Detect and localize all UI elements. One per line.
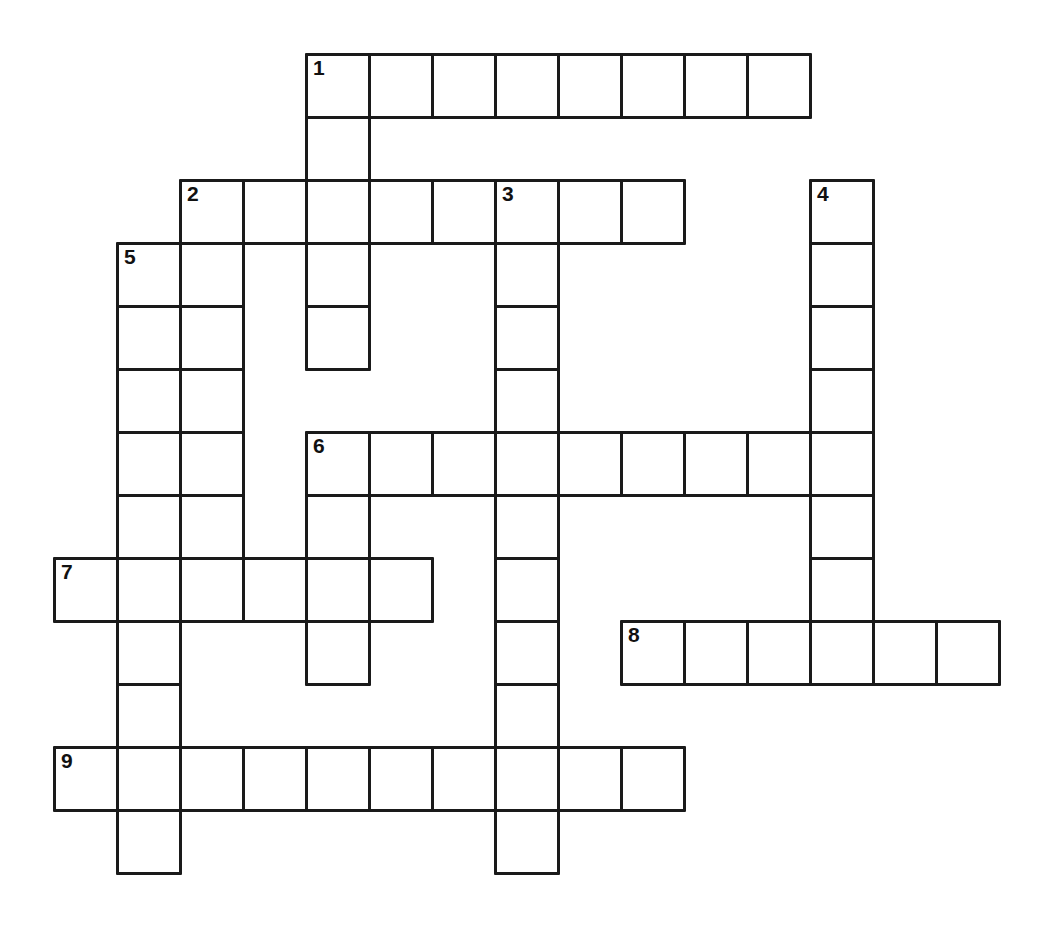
crossword-cell[interactable] <box>557 746 623 812</box>
crossword-cell[interactable] <box>494 809 560 875</box>
crossword-cell[interactable]: 2 <box>179 179 245 245</box>
crossword-cell[interactable] <box>494 368 560 434</box>
crossword-cell[interactable] <box>242 179 308 245</box>
crossword-cell[interactable] <box>179 494 245 560</box>
crossword-cell[interactable] <box>179 368 245 434</box>
crossword-cell[interactable] <box>494 620 560 686</box>
crossword-cell[interactable] <box>494 431 560 497</box>
cell-number-9: 9 <box>61 750 72 771</box>
crossword-cell[interactable] <box>305 620 371 686</box>
crossword-cell[interactable]: 6 <box>305 431 371 497</box>
cell-number-5: 5 <box>124 246 135 267</box>
crossword-cell[interactable] <box>179 557 245 623</box>
crossword-cell[interactable] <box>305 557 371 623</box>
crossword-cell[interactable] <box>809 620 875 686</box>
crossword-cell[interactable] <box>809 242 875 308</box>
crossword-cell[interactable] <box>683 620 749 686</box>
crossword-cell[interactable] <box>935 620 1001 686</box>
crossword-cell[interactable]: 5 <box>116 242 182 308</box>
crossword-cell[interactable] <box>431 431 497 497</box>
cell-number-6: 6 <box>313 435 324 456</box>
crossword-cell[interactable] <box>494 494 560 560</box>
crossword-puzzle: 123456789 <box>0 0 1037 938</box>
crossword-cell[interactable] <box>494 242 560 308</box>
crossword-cell[interactable] <box>557 53 623 119</box>
crossword-cell[interactable] <box>809 305 875 371</box>
crossword-cell[interactable] <box>494 557 560 623</box>
crossword-cell[interactable] <box>683 53 749 119</box>
crossword-cell[interactable] <box>242 746 308 812</box>
crossword-cell[interactable] <box>620 746 686 812</box>
crossword-cell[interactable] <box>179 242 245 308</box>
crossword-cell[interactable]: 7 <box>53 557 119 623</box>
crossword-cell[interactable]: 3 <box>494 179 560 245</box>
crossword-cell[interactable] <box>431 179 497 245</box>
crossword-cell[interactable] <box>305 746 371 812</box>
crossword-cell[interactable] <box>809 494 875 560</box>
crossword-cell[interactable] <box>116 494 182 560</box>
crossword-cell[interactable] <box>368 746 434 812</box>
cell-number-4: 4 <box>817 183 828 204</box>
crossword-cell[interactable] <box>557 179 623 245</box>
crossword-cell[interactable] <box>179 746 245 812</box>
crossword-cell[interactable] <box>116 809 182 875</box>
crossword-cell[interactable] <box>557 431 623 497</box>
crossword-cell[interactable] <box>305 179 371 245</box>
crossword-cell[interactable]: 1 <box>305 53 371 119</box>
crossword-cell[interactable]: 9 <box>53 746 119 812</box>
crossword-cell[interactable] <box>683 431 749 497</box>
crossword-cell[interactable] <box>368 179 434 245</box>
crossword-cell[interactable] <box>242 557 308 623</box>
crossword-cell[interactable] <box>494 53 560 119</box>
crossword-cell[interactable] <box>746 620 812 686</box>
crossword-cell[interactable] <box>620 179 686 245</box>
cell-number-7: 7 <box>61 561 72 582</box>
cell-number-1: 1 <box>313 57 324 78</box>
crossword-cell[interactable] <box>116 557 182 623</box>
crossword-cell[interactable] <box>116 431 182 497</box>
crossword-cell[interactable]: 8 <box>620 620 686 686</box>
crossword-cell[interactable] <box>872 620 938 686</box>
crossword-cell[interactable] <box>116 746 182 812</box>
crossword-cell[interactable] <box>809 431 875 497</box>
crossword-cell[interactable] <box>368 557 434 623</box>
crossword-cell[interactable] <box>179 431 245 497</box>
crossword-cell[interactable] <box>494 305 560 371</box>
crossword-cell[interactable] <box>305 494 371 560</box>
crossword-cell[interactable] <box>305 116 371 182</box>
crossword-cell[interactable] <box>494 683 560 749</box>
cell-number-2: 2 <box>187 183 198 204</box>
crossword-cell[interactable] <box>620 431 686 497</box>
crossword-cell[interactable] <box>431 746 497 812</box>
crossword-cell[interactable] <box>305 305 371 371</box>
cell-number-8: 8 <box>628 624 639 645</box>
crossword-cell[interactable] <box>368 431 434 497</box>
crossword-cell[interactable] <box>809 557 875 623</box>
crossword-cell[interactable] <box>809 368 875 434</box>
crossword-cell[interactable] <box>431 53 497 119</box>
crossword-grid[interactable]: 123456789 <box>0 0 1037 938</box>
crossword-cell[interactable] <box>620 53 686 119</box>
crossword-cell[interactable] <box>746 53 812 119</box>
crossword-cell[interactable] <box>116 305 182 371</box>
crossword-cell[interactable] <box>179 305 245 371</box>
crossword-cell[interactable] <box>116 368 182 434</box>
crossword-cell[interactable] <box>368 53 434 119</box>
crossword-cell[interactable] <box>746 431 812 497</box>
crossword-cell[interactable] <box>305 242 371 308</box>
crossword-cell[interactable] <box>494 746 560 812</box>
crossword-cell[interactable] <box>116 620 182 686</box>
crossword-cell[interactable] <box>116 683 182 749</box>
cell-number-3: 3 <box>502 183 513 204</box>
crossword-cell[interactable]: 4 <box>809 179 875 245</box>
